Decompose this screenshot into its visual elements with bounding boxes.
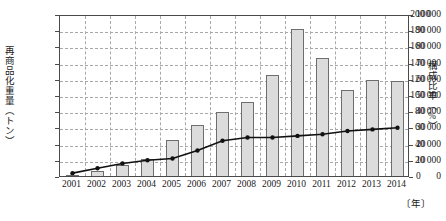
- x-axis-label: 2011: [312, 180, 331, 190]
- y2-axis-tick: [409, 15, 413, 16]
- line-series: [60, 16, 409, 177]
- plot-area: [59, 15, 409, 177]
- x-axis-label: 2002: [87, 180, 106, 190]
- x-axis-label: 2007: [212, 180, 231, 190]
- line-marker: [395, 126, 399, 130]
- y2-axis-tick: [409, 64, 413, 65]
- line-marker: [295, 134, 299, 138]
- y2-axis-tick: [409, 47, 413, 48]
- y2-axis-tick: [409, 96, 413, 97]
- x-axis-label: 2006: [187, 180, 206, 190]
- y2-axis-label: 20: [416, 140, 446, 150]
- y2-axis-tick: [409, 80, 413, 81]
- line-marker: [70, 171, 74, 175]
- y2-axis-label: 70: [416, 59, 446, 69]
- x-axis-label: 2005: [162, 180, 181, 190]
- x-axis-label: 2012: [337, 180, 356, 190]
- line-marker: [370, 127, 374, 131]
- y2-axis-tick: [409, 112, 413, 113]
- y2-axis-tick: [409, 177, 413, 178]
- x-axis-title: 〔年〕: [0, 196, 431, 210]
- y-axis-tick: [55, 177, 59, 178]
- line-polyline: [73, 128, 398, 173]
- x-axis-label: 2008: [237, 180, 256, 190]
- x-axis-label: 2009: [262, 180, 281, 190]
- y2-axis-tick: [409, 31, 413, 32]
- line-marker: [145, 158, 149, 162]
- y2-axis-label: 80: [416, 43, 446, 53]
- x-axis-label: 2014: [387, 180, 406, 190]
- y2-axis-label: 10: [416, 156, 446, 166]
- y2-axis-tick: [409, 128, 413, 129]
- y-axis-title: 再商品化重量（トン）: [2, 15, 15, 177]
- line-marker: [170, 156, 174, 160]
- y2-axis-tick: [409, 145, 413, 146]
- line-marker: [270, 135, 274, 139]
- y2-axis-label: 90: [416, 26, 446, 36]
- x-axis-label: 2003: [112, 180, 131, 190]
- x-axis-label: 2004: [137, 180, 156, 190]
- y2-axis-tick: [409, 161, 413, 162]
- y2-axis-label: 40: [416, 107, 446, 117]
- line-marker: [220, 139, 224, 143]
- y2-axis-label: 30: [416, 124, 446, 134]
- line-marker: [320, 132, 324, 136]
- line-marker: [345, 129, 349, 133]
- y2-axis-label: 0: [416, 172, 446, 182]
- line-marker: [95, 166, 99, 170]
- line-marker: [245, 135, 249, 139]
- x-axis-label: 2010: [287, 180, 306, 190]
- line-marker: [120, 161, 124, 165]
- line-marker: [195, 148, 199, 152]
- x-axis-label: 2013: [362, 180, 381, 190]
- y2-axis-label: 60: [416, 75, 446, 85]
- y2-axis-label: 50: [416, 91, 446, 101]
- x-axis-label: 2001: [62, 180, 81, 190]
- y2-axis-label: 100: [416, 10, 446, 20]
